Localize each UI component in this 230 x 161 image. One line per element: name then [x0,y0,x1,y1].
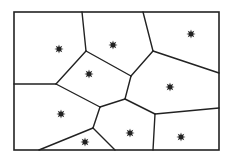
seed-star-icon [108,40,117,49]
seed-star-icon [54,44,63,53]
bounding-rectangle [14,12,219,150]
seed-star-icon [125,128,134,137]
seed-star-icon [84,69,93,78]
seed-star-icon [165,82,174,91]
seed-star-icon [186,29,195,38]
voronoi-diagram [0,0,230,161]
seed-star-icon [176,132,185,141]
seed-star-icon [80,137,89,146]
seed-star-icon [56,109,65,118]
